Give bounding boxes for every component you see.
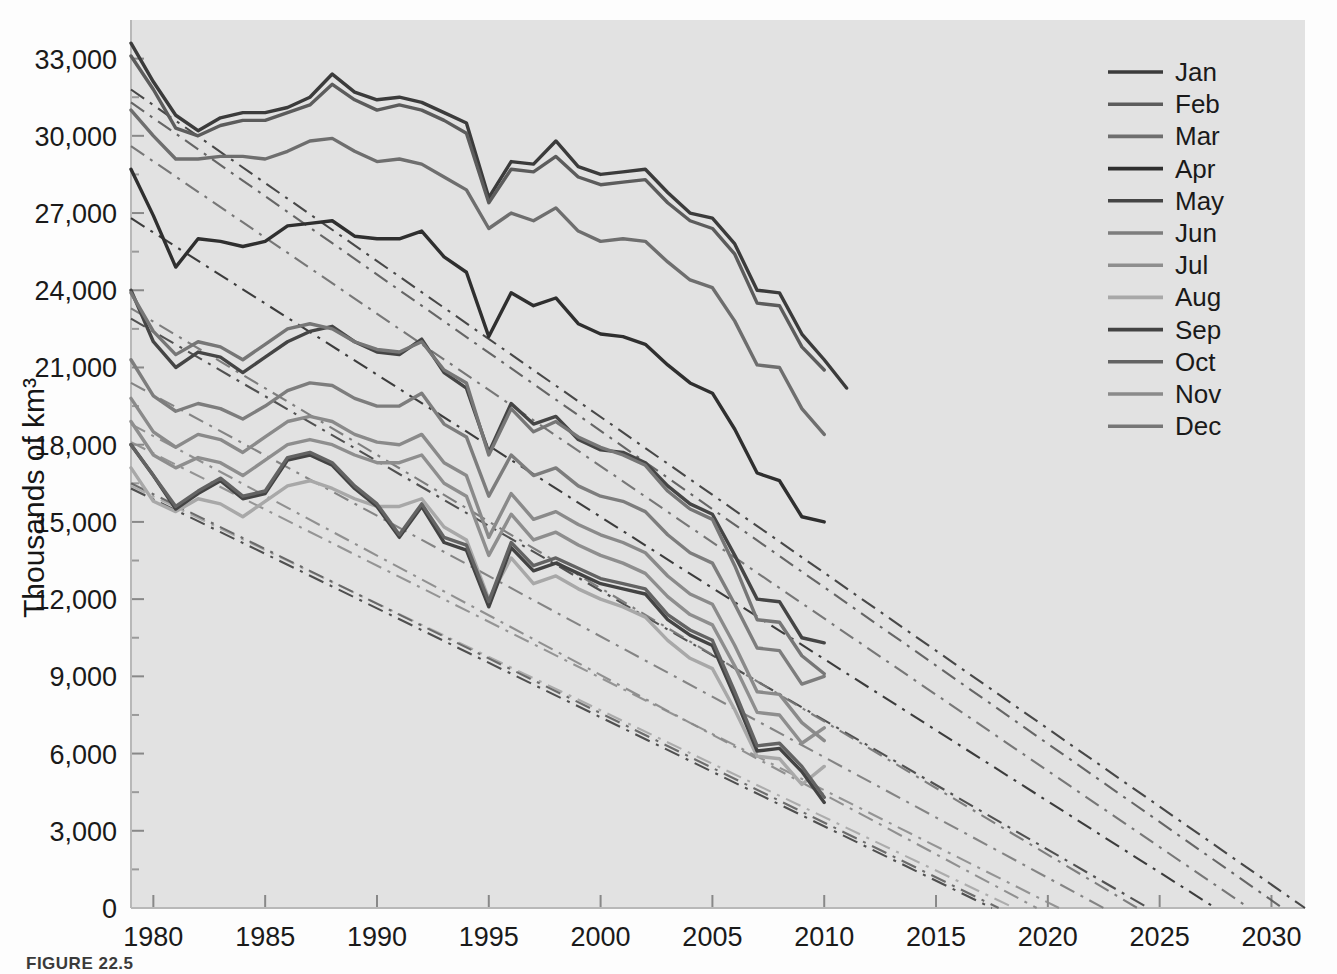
y-tick-label: 30,000 — [34, 122, 117, 152]
y-tick-label: 9,000 — [49, 662, 117, 692]
legend-label: Aug — [1175, 282, 1221, 312]
legend-label: Jun — [1175, 218, 1217, 248]
legend-label: Jul — [1175, 250, 1208, 280]
x-tick-label: 1995 — [459, 922, 519, 952]
y-tick-label: 24,000 — [34, 276, 117, 306]
x-tick-label: 2025 — [1130, 922, 1190, 952]
x-tick-label: 2015 — [906, 922, 966, 952]
legend-label: Feb — [1175, 89, 1220, 119]
figure-container: 03,0006,0009,00012,00015,00018,00021,000… — [0, 0, 1337, 974]
legend-label: Mar — [1175, 121, 1220, 151]
legend-label: Oct — [1175, 347, 1216, 377]
legend-label: Apr — [1175, 154, 1216, 184]
arctic-ice-volume-chart: 03,0006,0009,00012,00015,00018,00021,000… — [0, 0, 1337, 974]
x-tick-label: 2020 — [1018, 922, 1078, 952]
x-tick-label: 2010 — [794, 922, 854, 952]
x-tick-label: 2000 — [571, 922, 631, 952]
x-tick-label: 2005 — [682, 922, 742, 952]
legend-label: Sep — [1175, 315, 1221, 345]
y-tick-label: 3,000 — [49, 817, 117, 847]
figure-caption: FIGURE 22.5 — [26, 954, 134, 973]
legend-label: Dec — [1175, 411, 1221, 441]
x-tick-label: 1980 — [123, 922, 183, 952]
y-tick-label: 27,000 — [34, 199, 117, 229]
x-tick-label: 2030 — [1241, 922, 1301, 952]
y-tick-label: 6,000 — [49, 740, 117, 770]
y-axis-title: Thousands of km³ — [17, 378, 50, 618]
x-tick-label: 1985 — [235, 922, 295, 952]
plot-area-background — [131, 20, 1305, 908]
legend-label: Jan — [1175, 57, 1217, 87]
x-tick-label: 1990 — [347, 922, 407, 952]
legend-label: May — [1175, 186, 1224, 216]
y-tick-label: 33,000 — [34, 45, 117, 75]
y-tick-label: 0 — [102, 894, 117, 924]
legend-label: Nov — [1175, 379, 1221, 409]
